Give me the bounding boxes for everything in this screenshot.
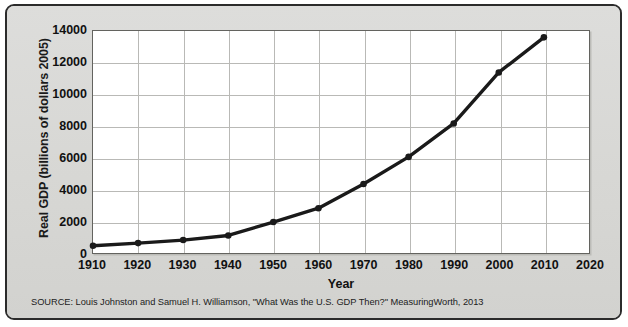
y-tick-label: 8000 <box>31 120 87 133</box>
data-point-marker <box>90 243 97 250</box>
data-point-marker <box>225 232 232 239</box>
data-point-marker <box>315 205 322 212</box>
series-line <box>93 37 544 245</box>
gdp-line-series <box>93 31 589 254</box>
x-axis-tick-labels: 1910192019301940195019601970198019902000… <box>92 259 590 275</box>
data-point-marker <box>496 69 503 76</box>
data-point-marker <box>135 240 142 247</box>
x-tick-label: 2020 <box>560 259 620 272</box>
data-point-marker <box>180 237 187 244</box>
x-axis-title: Year <box>92 277 590 291</box>
data-point-marker <box>270 219 277 226</box>
y-tick-label: 2000 <box>31 216 87 229</box>
chart-figure: Real GDP (billions of dollars 2005) 0200… <box>5 4 622 320</box>
y-tick-label: 14000 <box>31 24 87 37</box>
data-point-marker <box>360 181 367 188</box>
y-tick-label: 4000 <box>31 184 87 197</box>
data-point-marker <box>541 34 548 41</box>
source-note: SOURCE: Louis Johnston and Samuel H. Wil… <box>31 297 483 307</box>
y-tick-label: 12000 <box>31 56 87 69</box>
y-axis-tick-labels: 02000400060008000100001200014000 <box>29 6 87 320</box>
data-point-marker <box>450 120 457 127</box>
y-tick-label: 10000 <box>31 88 87 101</box>
plot-area <box>92 30 590 254</box>
data-point-marker <box>405 154 412 161</box>
y-tick-label: 6000 <box>31 152 87 165</box>
